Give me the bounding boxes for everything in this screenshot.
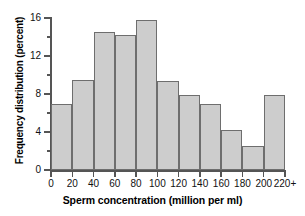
histogram-bar	[72, 80, 93, 170]
x-tick	[242, 171, 244, 177]
y-tick	[44, 55, 51, 57]
x-tick	[72, 171, 74, 177]
histogram-bar	[51, 104, 72, 171]
x-tick	[178, 171, 180, 177]
y-tick-label: 16	[1, 13, 41, 23]
x-tick-label: 220+	[265, 178, 305, 189]
histogram-bar	[157, 81, 178, 170]
histogram-chart: Frequency distribution (percent) 0481216…	[0, 0, 305, 216]
x-tick	[199, 171, 201, 177]
histogram-bar	[221, 130, 242, 170]
histogram-bar	[264, 95, 285, 170]
histogram-bar	[94, 32, 115, 170]
histogram-bar	[179, 95, 200, 170]
y-tick	[44, 17, 51, 19]
histogram-bar	[136, 20, 157, 170]
histogram-bar	[242, 146, 263, 170]
x-tick	[114, 171, 116, 177]
y-tick	[44, 93, 51, 95]
x-tick	[50, 171, 52, 177]
histogram-bar	[200, 104, 221, 171]
y-tick	[44, 131, 51, 133]
x-axis-title: Sperm concentration (million per ml)	[0, 194, 305, 206]
x-tick	[135, 171, 137, 177]
x-axis-line	[50, 170, 286, 172]
x-tick	[263, 171, 265, 177]
y-tick-label: 12	[1, 51, 41, 61]
y-tick-label: 4	[1, 127, 41, 137]
x-tick	[220, 171, 222, 177]
x-tick	[93, 171, 95, 177]
histogram-bar	[115, 35, 136, 170]
x-tick	[157, 171, 159, 177]
x-tick	[284, 171, 286, 177]
y-tick-label: 0	[1, 165, 41, 175]
y-tick-label: 8	[1, 89, 41, 99]
plot-area	[51, 18, 285, 170]
